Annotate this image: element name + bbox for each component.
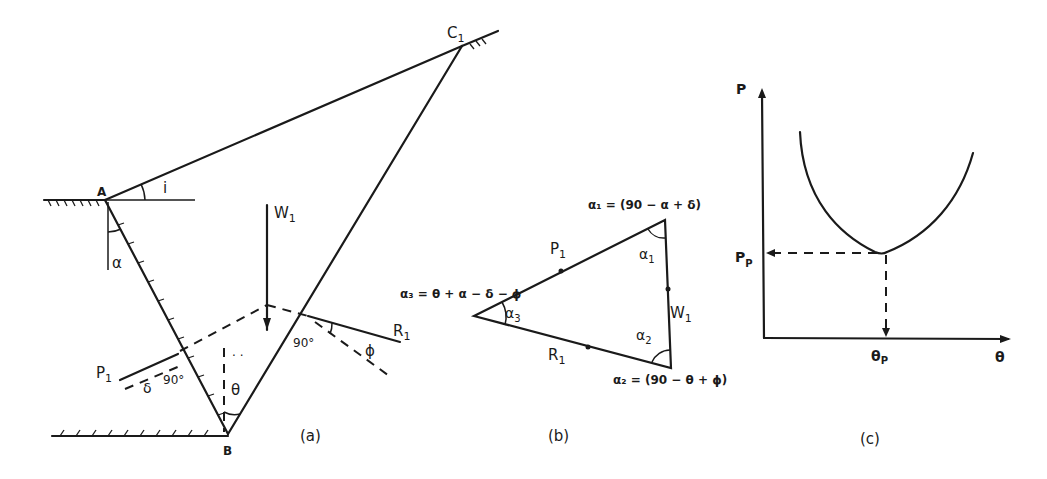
weight-arrowhead-icon [263,318,271,330]
x-axis [764,338,1008,339]
y-axis-arrow-icon [758,88,766,98]
angle-a1-arc [648,229,665,238]
angle-a1-label: α1 [639,246,655,265]
force-p1-label: P1 [96,364,112,385]
r1-arrow-icon [586,345,591,350]
angle-alpha-label: α [112,254,122,272]
theta-p-label: θP [871,348,888,366]
p-theta-curve [800,132,973,254]
failure-plane-line [228,46,462,434]
point-a-label: A [97,185,107,199]
w1-arrow-icon [666,287,671,292]
angle-i-label: i [163,179,167,197]
panel-c-caption: (c) [860,430,880,448]
p1-line-of-action [180,305,267,351]
panel-a: i α A B C1 θ . . [44,24,498,458]
backfill-surface-line [105,46,462,200]
angle-a2-arc [652,350,670,362]
theta-p-arrow-icon [882,328,890,337]
force-r1-line [308,316,400,342]
panel-a-caption: (a) [300,427,321,445]
angle-delta-label: δ [143,380,152,396]
p1-arrow-icon [559,269,564,274]
equation-a3: α₃ = θ + α − δ − ϕ [400,287,521,301]
angle-theta-label: θ [231,381,240,399]
point-b-label: B [223,444,232,458]
angle-alpha-arc [108,229,121,232]
x-axis-label: θ [995,349,1005,365]
triangle-r1-label: R1 [548,346,565,367]
dots-symbol: . . [232,345,243,359]
angle-a3-label: α3 [505,305,521,324]
pp-label: PP [735,249,753,269]
panel-b-caption: (b) [548,427,569,445]
angle-a2-label: α2 [636,327,652,346]
backfill-extension [462,31,498,46]
y-axis [762,92,764,338]
pp-arrow-icon [766,249,775,257]
wall-face-line [105,200,228,434]
failure-plane-normal-dashed [315,322,392,378]
angle-theta-arc [224,412,240,415]
right-angle-label-1: 90° [163,373,184,387]
panel-b: P1 W1 R1 α1 α2 α3 α₁ = (90 − α + δ) α₂ =… [400,198,727,445]
equation-a1: α₁ = (90 − α + δ) [588,198,701,212]
angle-i-arc [141,184,145,200]
triangle-w1-label: W1 [670,304,692,325]
angle-phi-arc [330,323,332,334]
right-angle-label-2: 90° [293,336,314,350]
panel-c: P θ PP θP (c) [735,81,1011,448]
force-r1-label: R1 [393,322,410,343]
point-c1-label: C1 [447,24,464,45]
x-axis-arrow-icon [1000,335,1011,343]
weight-w1-label: W1 [274,204,296,225]
equation-a2: α₂ = (90 − θ + ϕ) [613,373,727,387]
y-axis-label: P [736,81,746,97]
diagram-canvas: i α A B C1 θ . . [0,0,1047,479]
triangle-p1-label: P1 [550,240,566,261]
angle-phi-label: ϕ [365,342,375,360]
